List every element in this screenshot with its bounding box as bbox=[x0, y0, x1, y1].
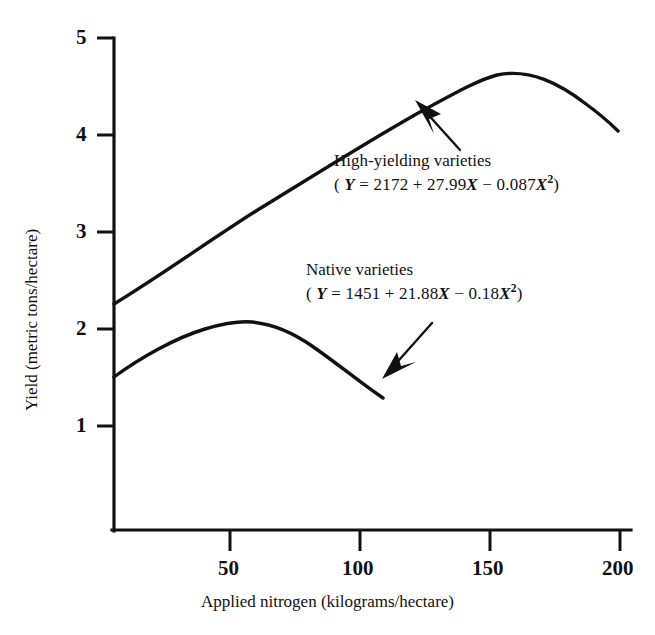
x-axis-label: Applied nitrogen (kilograms/hectare) bbox=[0, 592, 655, 612]
x-tick-label-200: 200 bbox=[602, 558, 634, 579]
eq-close-paren: ) bbox=[553, 175, 559, 194]
annotation-native-title: Native varieties bbox=[306, 258, 523, 282]
eq-minus-term: − 0.18 bbox=[450, 284, 499, 303]
y-axis-label: Yield (metric tons/hectare) bbox=[10, 120, 54, 520]
arrow-head-high-yielding bbox=[415, 100, 441, 134]
y-tick-label-1: 1 bbox=[76, 415, 87, 436]
x-tick-label-100: 100 bbox=[342, 558, 374, 579]
eq-body: = 1451 + 21.88 bbox=[327, 284, 438, 303]
eq-x-symbol-1: X bbox=[466, 175, 478, 194]
y-tick-label-3: 3 bbox=[76, 221, 87, 242]
annotation-native: Native varieties ( Y = 1451 + 21.88X − 0… bbox=[306, 258, 523, 306]
y-axis-label-text: Yield (metric tons/hectare) bbox=[22, 229, 42, 411]
eq-body: = 2172 + 27.99 bbox=[355, 175, 466, 194]
x-tick-label-150: 150 bbox=[472, 558, 504, 579]
arrow-head-native bbox=[382, 352, 416, 379]
annotation-native-equation: ( Y = 1451 + 21.88X − 0.18X2) bbox=[306, 282, 523, 306]
eq-close-paren: ) bbox=[517, 284, 523, 303]
annotation-high-yielding: High-yielding varieties ( Y = 2172 + 27.… bbox=[334, 149, 559, 197]
eq-x-symbol-1: X bbox=[438, 284, 450, 303]
y-tick-label-2: 2 bbox=[76, 318, 87, 339]
y-tick-label-5: 5 bbox=[76, 27, 87, 48]
annotation-high-yielding-equation: ( Y = 2172 + 27.99X − 0.087X2) bbox=[334, 173, 559, 197]
eq-x-symbol-2: X bbox=[499, 284, 511, 303]
eq-minus-term: − 0.087 bbox=[478, 175, 536, 194]
eq-y-symbol: Y bbox=[316, 284, 327, 303]
chart-figure: 5 4 3 2 1 50 100 150 200 Yield (metric t… bbox=[0, 0, 655, 635]
eq-open-paren: ( bbox=[306, 284, 316, 303]
chart-plot-area bbox=[0, 0, 655, 635]
curve-native-varieties bbox=[114, 322, 383, 398]
eq-x-symbol-2: X bbox=[536, 175, 548, 194]
x-tick-label-50: 50 bbox=[218, 558, 239, 579]
y-tick-label-4: 4 bbox=[76, 124, 87, 145]
annotation-high-yielding-title: High-yielding varieties bbox=[334, 149, 559, 173]
eq-open-paren: ( bbox=[334, 175, 344, 194]
eq-y-symbol: Y bbox=[344, 175, 355, 194]
